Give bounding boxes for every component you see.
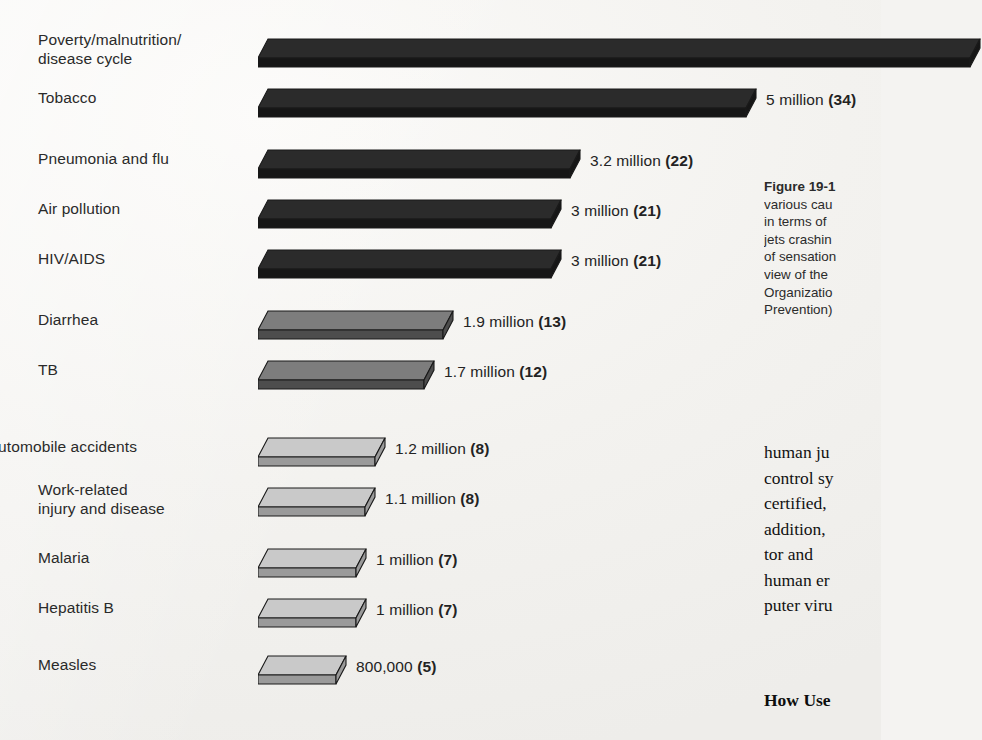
body-line: human ju — [764, 440, 881, 466]
bar-value-number: 1.9 million — [463, 313, 534, 330]
bar-value-number: 1 million — [376, 551, 434, 568]
bar-value-label: 1 million (7) — [376, 551, 457, 569]
bar-value-number: 1.2 million — [395, 440, 466, 457]
bar-percent-label: (12) — [519, 363, 547, 380]
bar-value-label: 1.2 million (8) — [395, 440, 490, 458]
bar-value-label: 1.7 million (12) — [444, 363, 547, 381]
category-label: TB — [38, 360, 58, 379]
bar-percent-label: (7) — [438, 551, 457, 568]
bar-2 — [258, 88, 758, 118]
bar-value-number: 3 million — [571, 202, 629, 219]
body-line: human er — [764, 568, 881, 594]
bar-percent-label: (8) — [460, 490, 479, 507]
bar-11 — [258, 598, 368, 628]
bar-4 — [258, 199, 563, 229]
bar-percent-label: (5) — [417, 658, 436, 675]
bar-value-label: 3 million (21) — [571, 252, 661, 270]
category-label: Diarrhea — [38, 310, 98, 329]
bar-percent-label: (22) — [665, 152, 693, 169]
bar-value-label: 1 million (7) — [376, 601, 457, 619]
bar-value-label: 3 million (21) — [571, 202, 661, 220]
bar-value-number: 1 million — [376, 601, 434, 618]
caption-line: of sensation — [764, 248, 881, 266]
category-label: Poverty/malnutrition/ disease cycle — [38, 30, 181, 68]
bar-9 — [258, 487, 377, 517]
category-label: Malaria — [38, 548, 90, 567]
category-label: Tobacco — [38, 88, 96, 107]
caption-title: Figure 19-1 — [764, 178, 881, 196]
bar-5 — [258, 249, 563, 279]
category-label: Air pollution — [38, 199, 120, 218]
bar-percent-label: (21) — [633, 202, 661, 219]
category-label: Hepatitis B — [38, 598, 114, 617]
caption-line: jets crashin — [764, 231, 881, 249]
right-text-column: Figure 19-1various cauin terms of jets c… — [764, 0, 881, 740]
caption-line: in terms of — [764, 213, 881, 231]
bar-value-label: 1.9 million (13) — [463, 313, 566, 331]
bar-percent-label: (8) — [470, 440, 489, 457]
bar-8 — [258, 437, 387, 467]
bar-12 — [258, 655, 348, 685]
caption-line: view of the — [764, 266, 881, 284]
category-label: Automobile accidents — [0, 437, 137, 456]
body-paragraph: human jucontrol sycertified, addition, t… — [764, 440, 881, 619]
body-line: certified, — [764, 491, 881, 517]
category-label: Measles — [38, 655, 96, 674]
body-line: control sy — [764, 466, 881, 492]
category-label: Work-related injury and disease — [38, 480, 165, 518]
caption-line: Prevention) — [764, 301, 881, 319]
caption-line: Organizatio — [764, 284, 881, 302]
bar-value-label: 1.1 million (8) — [385, 490, 480, 508]
body-line: addition, — [764, 517, 881, 543]
body-line: tor and — [764, 542, 881, 568]
section-subheading: How Use — [764, 690, 881, 711]
bar-6 — [258, 310, 455, 340]
bar-value-number: 800,000 — [356, 658, 413, 675]
bar-value-label: 3.2 million (22) — [590, 152, 693, 170]
bar-chart: Poverty/malnutrition/ disease cycleTobac… — [0, 0, 760, 740]
category-label: Pneumonia and flu — [38, 149, 169, 168]
caption-line: various cau — [764, 196, 881, 214]
bar-7 — [258, 360, 436, 390]
bar-10 — [258, 548, 368, 578]
bar-percent-label: (21) — [633, 252, 661, 269]
bar-value-number: 3 million — [571, 252, 629, 269]
figure-caption: Figure 19-1various cauin terms of jets c… — [764, 178, 881, 319]
bar-3 — [258, 149, 582, 179]
category-label: HIV/AIDS — [38, 249, 105, 268]
body-line: puter viru — [764, 593, 881, 619]
bar-percent-label: (13) — [538, 313, 566, 330]
bar-percent-label: (7) — [438, 601, 457, 618]
bar-value-number: 3.2 million — [590, 152, 661, 169]
bar-value-label: 800,000 (5) — [356, 658, 436, 676]
bar-value-number: 1.7 million — [444, 363, 515, 380]
bar-value-number: 1.1 million — [385, 490, 456, 507]
